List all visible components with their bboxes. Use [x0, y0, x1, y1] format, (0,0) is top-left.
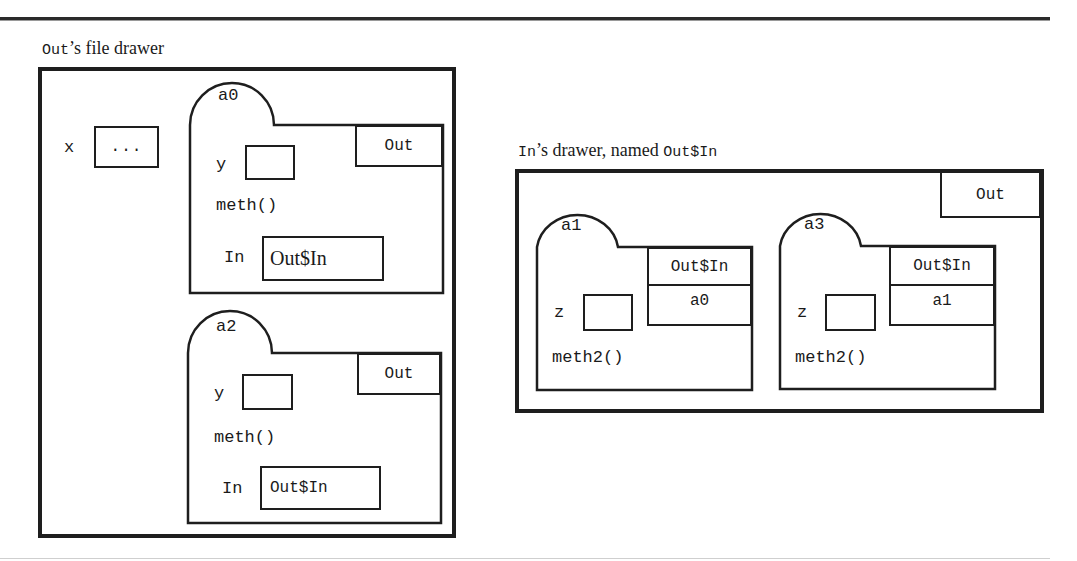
object-a3-class-cell: Out$In	[889, 246, 995, 286]
bottom-rule	[0, 558, 1050, 559]
object-a3-outer-ref-cell: a1	[889, 284, 995, 326]
object-a3-class: Out$In	[913, 257, 971, 275]
object-a3-field-z-label: z	[797, 303, 807, 323]
object-a3-name: a3	[804, 215, 824, 235]
object-a3-method: meth2()	[795, 348, 866, 368]
object-a3-field-z-box	[825, 294, 876, 331]
object-a3-outer-ref: a1	[932, 292, 951, 310]
